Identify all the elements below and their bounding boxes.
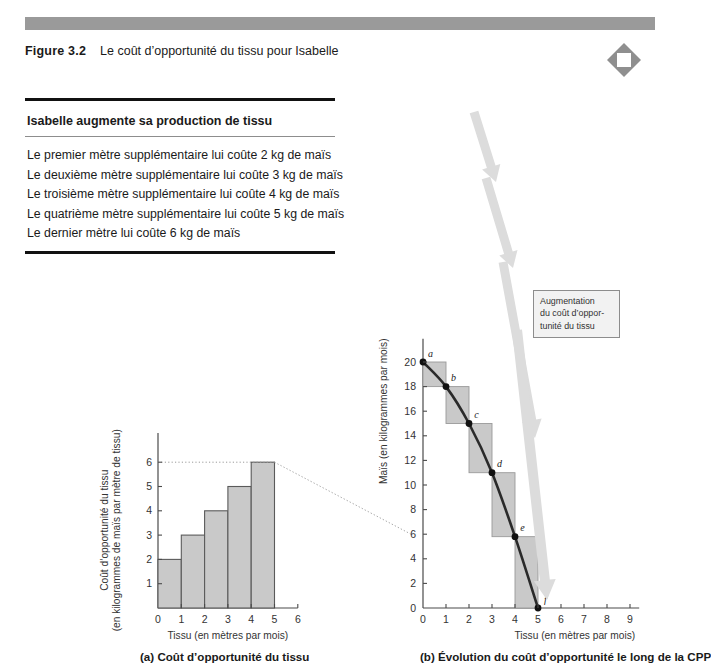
x-tick-label-9: 9 bbox=[627, 613, 633, 625]
x-tick-label-4: 4 bbox=[512, 613, 518, 625]
x-tick-label-1: 1 bbox=[443, 613, 449, 625]
x-tick-label-8: 8 bbox=[604, 613, 610, 625]
x-tick-label-3: 3 bbox=[225, 613, 231, 625]
y-tick-label-4: 4 bbox=[146, 504, 152, 516]
connector-line bbox=[275, 462, 412, 534]
chart-panel-a: 0123456123456Tissu (en mètres par mois)C… bbox=[99, 429, 301, 641]
chart-panel-b: abcdef012345678902468101214161820Tissu (… bbox=[378, 111, 639, 641]
x-tick-label-7: 7 bbox=[581, 613, 587, 625]
y-tick-label-16: 16 bbox=[404, 405, 416, 417]
point-e bbox=[512, 533, 519, 540]
y-tick-label-2: 2 bbox=[410, 577, 416, 589]
y-tick-label-3: 3 bbox=[146, 529, 152, 541]
x-tick-label-1: 1 bbox=[178, 613, 184, 625]
y-axis-title-line2-panel-a: (en kilogrammes de maïs par mètre de tis… bbox=[111, 429, 122, 631]
y-tick-label-5: 5 bbox=[146, 480, 152, 492]
y-tick-label-14: 14 bbox=[404, 429, 416, 441]
bar-3 bbox=[181, 535, 204, 608]
point-b bbox=[443, 383, 450, 390]
x-tick-label-6: 6 bbox=[558, 613, 564, 625]
y-tick-label-4: 4 bbox=[410, 552, 416, 564]
augmentation-arrow-segment-2 bbox=[482, 177, 518, 268]
x-tick-label-4: 4 bbox=[248, 613, 254, 625]
y-tick-label-0: 0 bbox=[410, 602, 416, 614]
point-label-d: d bbox=[497, 458, 503, 469]
x-tick-label-3: 3 bbox=[489, 613, 495, 625]
x-tick-label-0: 0 bbox=[155, 613, 161, 625]
y-tick-label-10: 10 bbox=[404, 479, 416, 491]
x-tick-label-2: 2 bbox=[466, 613, 472, 625]
y-tick-label-20: 20 bbox=[404, 356, 416, 368]
augmentation-arrow-segment-1 bbox=[470, 111, 501, 182]
y-tick-label-2: 2 bbox=[146, 553, 152, 565]
point-d bbox=[489, 469, 496, 476]
point-label-c: c bbox=[474, 409, 479, 420]
y-tick-label-18: 18 bbox=[404, 380, 416, 392]
point-c bbox=[466, 420, 473, 427]
x-axis-title-panel-a: Tissu (en mètres par mois) bbox=[168, 630, 289, 641]
bar-4 bbox=[205, 511, 228, 608]
x-tick-label-0: 0 bbox=[420, 613, 426, 625]
y-tick-label-12: 12 bbox=[404, 454, 416, 466]
x-tick-label-5: 5 bbox=[272, 613, 278, 625]
y-axis-title-panel-b: Maïs (en kilogrammes par mois) bbox=[378, 338, 389, 484]
point-label-e: e bbox=[520, 522, 525, 533]
x-tick-label-2: 2 bbox=[202, 613, 208, 625]
caption-panel-a: (a) Coût d’opportunité du tissu bbox=[140, 650, 309, 663]
y-tick-label-1: 1 bbox=[146, 577, 152, 589]
y-tick-label-6: 6 bbox=[146, 456, 152, 468]
bar-6 bbox=[251, 462, 274, 608]
panel-connector-dotted-line bbox=[275, 462, 412, 534]
y-axis-title-line1-panel-a: Coût d’opportunité du tissu bbox=[99, 470, 110, 591]
point-label-b: b bbox=[451, 372, 456, 383]
y-tick-label-8: 8 bbox=[410, 503, 416, 515]
caption-panel-b: (b) Évolution du coût d’opportunité le l… bbox=[420, 650, 711, 663]
bar-5 bbox=[228, 487, 251, 609]
point-label-a: a bbox=[428, 348, 433, 359]
x-tick-label-5: 5 bbox=[535, 613, 541, 625]
x-tick-label-6: 6 bbox=[295, 613, 301, 625]
x-axis-title-panel-b: Tissu (en mètres par mois) bbox=[514, 630, 635, 641]
